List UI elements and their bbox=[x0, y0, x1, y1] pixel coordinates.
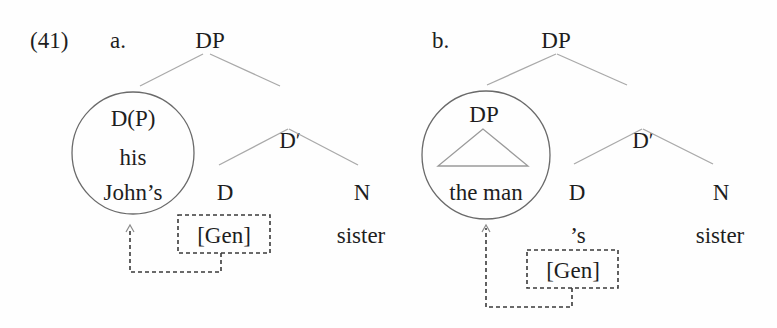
tree-a-root-dp: DP bbox=[195, 28, 224, 53]
example-number: (41) bbox=[30, 28, 68, 53]
tree-a-label: a. bbox=[110, 28, 126, 53]
tree-a-branch-root-bar bbox=[210, 54, 280, 86]
tree-b-branch-root-spec bbox=[487, 54, 556, 85]
tree-b-branch-root-bar bbox=[557, 54, 627, 85]
tree-a-arrowhead-icon bbox=[126, 225, 134, 232]
tree-a-specifier-his: his bbox=[120, 145, 147, 170]
tree-b-comp-n: N bbox=[713, 180, 730, 205]
tree-a-gen-feature: [Gen] bbox=[197, 223, 251, 248]
tree-b-root-dp: DP bbox=[541, 28, 570, 53]
tree-a-specifier-category: D(P) bbox=[111, 106, 156, 131]
tree-b-gen-feature: [Gen] bbox=[546, 258, 600, 283]
tree-b-comp-sister: sister bbox=[696, 223, 745, 248]
syntax-tree-figure: (41) a. DP D(P) his John’s D′ D N sister… bbox=[0, 0, 777, 328]
tree-a-head-d: D bbox=[217, 180, 234, 205]
tree-a-branch-root-spec bbox=[140, 54, 203, 86]
tree-b-head-d: D bbox=[569, 180, 586, 205]
tree-diagram-canvas: (41) a. DP D(P) his John’s D′ D N sister… bbox=[0, 0, 777, 328]
tree-a-branch-bar-head bbox=[219, 129, 288, 165]
tree-b-specifier-the-man: the man bbox=[449, 180, 523, 205]
tree-b-head-possessive-s: ’s bbox=[570, 223, 585, 248]
tree-a-comp-sister: sister bbox=[337, 223, 386, 248]
tree-b-specifier-category: DP bbox=[469, 102, 498, 127]
tree-b-label: b. bbox=[432, 28, 449, 53]
tree-a-specifier-johns: John’s bbox=[104, 180, 163, 205]
tree-a-comp-n: N bbox=[354, 180, 371, 205]
tree-b-triangle-icon bbox=[438, 129, 528, 166]
tree-a: a. DP D(P) his John’s D′ D N sister [Gen… bbox=[72, 28, 386, 272]
tree-b: b. DP DP the man D′ D N ’s sister [Gen] bbox=[422, 28, 745, 307]
